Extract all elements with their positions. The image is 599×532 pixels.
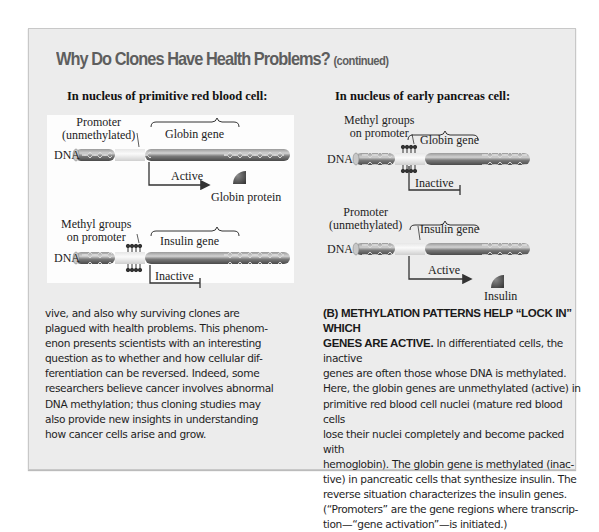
body-line: how cancer cells arise and grow. bbox=[45, 427, 320, 442]
body-line: vive, and also why surviving clones are bbox=[45, 306, 320, 321]
methyl-label-line2: on promoter bbox=[67, 230, 126, 244]
left-top-state-label: Active bbox=[171, 170, 203, 183]
right-top-gene-label: Globin gene bbox=[420, 134, 479, 147]
promoter-label-line2: (unmethylated) bbox=[62, 128, 135, 142]
right-bottom-promoter-label: Promoter(unmethylated) bbox=[329, 206, 402, 232]
caption-line: primitive red blood cell nuclei (mature … bbox=[323, 397, 583, 427]
left-bottom-methyl-label: Methyl groupson promoter bbox=[61, 218, 131, 244]
body-line: plagued with health problems. This pheno… bbox=[45, 321, 320, 336]
body-line: also provide new insights in understandi… bbox=[45, 412, 320, 427]
caption-line: lose their nuclei completely and become … bbox=[323, 427, 583, 457]
right-top-dna-label: DNA bbox=[327, 153, 353, 166]
body-line: question as to whether and how cellular … bbox=[45, 351, 320, 366]
right-bottom-product-label: Insulin bbox=[484, 290, 517, 303]
promoter-label-line1: Promoter bbox=[343, 205, 388, 219]
right-bottom-gene-label: Insulin gene bbox=[420, 223, 479, 236]
figure-caption: (B) METHYLATION PATTERNS HELP “LOCK IN” … bbox=[323, 306, 583, 532]
left-top-promoter-label: Promoter(unmethylated) bbox=[62, 116, 135, 142]
body-line: ferentiation can be reversed. Indeed, so… bbox=[45, 366, 320, 381]
left-top-product-label: Globin protein bbox=[211, 191, 281, 204]
right-bottom-dna-label: DNA bbox=[327, 243, 353, 256]
left-bottom-dna-label: DNA bbox=[54, 252, 80, 265]
right-top-methyl-label: Methyl groupson promoter bbox=[344, 114, 414, 140]
left-top-dna-label: DNA bbox=[54, 149, 80, 162]
caption-line: reverse situation characterizes the insu… bbox=[323, 487, 583, 502]
left-bottom-gene-label: Insulin gene bbox=[160, 235, 219, 248]
body-text-left: vive, and also why surviving clones are … bbox=[45, 306, 320, 442]
left-top-gene-label: Globin gene bbox=[165, 128, 224, 141]
body-line: enon presents scientists with an interes… bbox=[45, 336, 320, 351]
promoter-label-line1: Promoter bbox=[76, 115, 121, 129]
promoter-label-line2: (unmethylated) bbox=[329, 218, 402, 232]
methyl-label-line1: Methyl groups bbox=[344, 113, 414, 127]
caption-line: tive) in pancreatic cells that synthesiz… bbox=[323, 472, 583, 487]
methyl-label-line1: Methyl groups bbox=[61, 217, 131, 231]
caption-line: hemoglobin). The globin gene is methylat… bbox=[323, 457, 583, 472]
caption-line: Here, the globin genes are unmethylated … bbox=[323, 381, 583, 396]
body-line: researchers believe cancer involves abno… bbox=[45, 381, 320, 396]
right-top-state-label: Inactive bbox=[415, 177, 454, 190]
caption-line: tion—“gene activation”—is initiated.) bbox=[323, 517, 583, 532]
caption-line: (“Promoters” are the gene regions where … bbox=[323, 502, 583, 517]
methyl-label-line2: on promoter bbox=[350, 126, 409, 140]
body-line: DNA methylation; thus cloning studies ma… bbox=[45, 397, 320, 412]
caption-heading-line2: GENES ARE ACTIVE. bbox=[323, 337, 433, 349]
caption-heading-line1: (B) METHYLATION PATTERNS HELP “LOCK IN” … bbox=[323, 307, 572, 334]
right-bottom-state-label: Active bbox=[428, 264, 460, 277]
caption-line: genes are often those whose DNA is methy… bbox=[323, 366, 583, 381]
left-bottom-state-label: Inactive bbox=[155, 270, 194, 283]
